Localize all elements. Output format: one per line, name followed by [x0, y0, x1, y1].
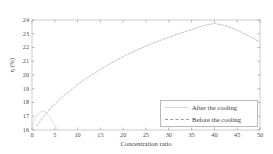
x-tick-label: 15 [90, 132, 110, 138]
legend-line-sample-solid [165, 107, 189, 110]
y-axis-label: η (%) [9, 45, 15, 85]
x-tick-label: 5 [45, 132, 65, 138]
legend: After the cooling Before the cooling [160, 100, 258, 127]
y-tick-label: 18 [10, 99, 29, 105]
x-tick-label: 50 [250, 132, 270, 138]
x-axis-label: Concentration ratio [32, 141, 260, 148]
x-tick-label: 25 [136, 132, 156, 138]
y-tick-label: 24 [10, 17, 29, 23]
legend-item-label: Before the cooling [192, 116, 241, 125]
x-tick-label: 40 [204, 132, 224, 138]
x-tick-label: 45 [227, 132, 247, 138]
legend-item-after-the-cooling[interactable]: After the cooling [161, 102, 259, 114]
x-tick-label: 10 [68, 132, 88, 138]
legend-item-label: After the cooling [192, 104, 237, 113]
y-tick-label: 17 [10, 113, 29, 119]
x-tick-label: 30 [159, 132, 179, 138]
y-tick-label: 23 [10, 31, 29, 37]
y-tick-label: 19 [10, 86, 29, 92]
x-tick-label: 0 [22, 132, 42, 138]
legend-line-sample-dashed [165, 119, 189, 122]
x-tick-label: 35 [182, 132, 202, 138]
x-tick-label: 20 [113, 132, 133, 138]
plot-canvas [0, 0, 273, 154]
chart-figure: 161718192021222324 05101520253035404550 … [0, 0, 273, 154]
legend-item-before-the-cooling[interactable]: Before the cooling [161, 114, 259, 126]
